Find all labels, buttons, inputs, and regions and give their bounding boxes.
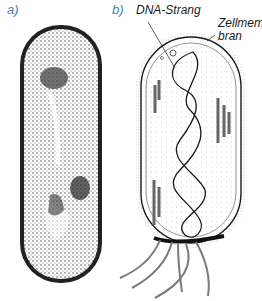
cell-membrane-label: Zellmem- bran (218, 17, 262, 43)
bacterium-micrograph (20, 25, 102, 283)
cell-membrane-label-line2: bran (218, 30, 262, 43)
bacterium-schematic (120, 32, 246, 298)
diagram-artwork (0, 0, 262, 301)
dna-strand-label: DNA-Strang (136, 4, 201, 17)
panel-b-label: b) (112, 2, 124, 17)
bacterium-diagram: a) b) DNA-Strang Zellmem- bran (0, 0, 262, 301)
panel-a-label: a) (7, 2, 19, 17)
